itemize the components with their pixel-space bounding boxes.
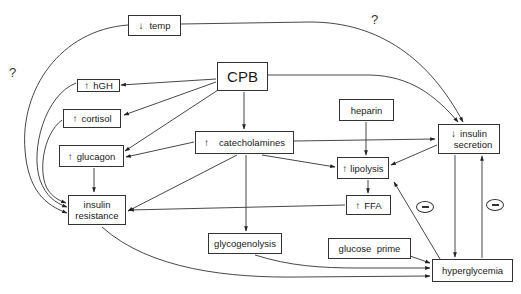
edge-cpb-hgh	[121, 79, 216, 85]
node-label: hyperglycemia	[442, 265, 503, 276]
node-lipolysis: ↑ lipolysis	[337, 157, 389, 179]
up-arrow-icon: ↑	[84, 80, 89, 91]
edge-ffa-insulin-resistance	[129, 205, 345, 210]
node-label-line2: secretion	[446, 139, 493, 150]
up-arrow-icon: ↑	[72, 113, 77, 124]
edge-catecholamines-insulin-secretion	[294, 139, 435, 141]
down-arrow-icon: ↓	[451, 128, 456, 139]
node-temp: ↓ temp	[128, 15, 181, 36]
node-label-line2: resistance	[75, 210, 118, 221]
negative-feedback-icon-lipolysis	[416, 201, 434, 213]
node-hyperglycemia: hyperglycemia	[432, 259, 513, 282]
node-hgh: ↑ hGH	[77, 79, 120, 92]
node-glycogenolysis: glycogenolysis	[208, 233, 282, 254]
node-catecholamines: ↑ catecholamines	[195, 131, 294, 154]
node-label: catecholamines	[219, 137, 285, 148]
up-arrow-icon: ↑	[204, 137, 209, 148]
question-mark-left: ?	[9, 65, 16, 80]
node-cpb: CPB	[217, 62, 268, 91]
node-label: heparin	[351, 105, 383, 116]
node-glucose-prime: glucose prime	[328, 238, 411, 259]
up-arrow-icon: ↑	[68, 151, 73, 162]
node-label-line1: insulin	[460, 128, 487, 139]
node-label: glucose prime	[339, 243, 401, 254]
node-label: temp	[149, 20, 170, 31]
node-insulin-secretion: ↓insulin secretion	[438, 124, 500, 154]
node-insulin-resistance: insulin resistance	[68, 195, 126, 225]
node-heparin: heparin	[339, 99, 394, 121]
edge-insulin-secretion-lipolysis	[391, 145, 437, 165]
edge-glucose-prime-hyperglycemia	[410, 256, 430, 263]
node-label: CPB	[227, 71, 258, 82]
node-label: lipolysis	[350, 163, 383, 174]
edge-catecholamines-lipolysis	[262, 155, 335, 167]
node-label: FFA	[364, 200, 381, 211]
node-ffa: ↑ FFA	[346, 195, 391, 215]
negative-feedback-icon-insulin-secretion	[486, 199, 504, 211]
down-arrow-icon: ↓	[138, 20, 143, 31]
edge-cpb-cortisol	[124, 82, 216, 115]
node-cortisol: ↑ cortisol	[63, 109, 121, 128]
up-arrow-icon: ↑	[355, 200, 360, 211]
node-label: cortisol	[81, 113, 111, 124]
edge-catecholamines-insulin-resistance	[128, 155, 237, 211]
node-label: glycogenolysis	[214, 238, 276, 249]
question-mark-top: ?	[371, 12, 378, 27]
node-label: glucagon	[77, 151, 116, 162]
node-glucagon: ↑ glucagon	[59, 145, 124, 167]
up-arrow-icon: ↑	[342, 163, 347, 174]
node-label: hGH	[93, 80, 113, 91]
edge-catecholamines-glucagon	[126, 142, 194, 157]
node-label-line1: insulin	[84, 199, 111, 210]
